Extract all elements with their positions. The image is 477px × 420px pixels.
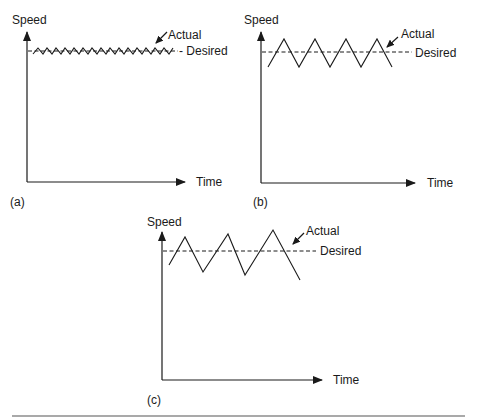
- y-axis-label: Speed: [244, 13, 279, 27]
- x-axis-label: Time: [196, 175, 223, 189]
- desired-label: - Desired: [179, 44, 228, 58]
- figure-canvas: Speed Time (a) Actual - Desired Speed Ti…: [0, 0, 477, 420]
- x-axis-label: Time: [427, 176, 454, 190]
- actual-label: Actual: [168, 28, 201, 42]
- y-axis-label: Speed: [147, 215, 182, 229]
- actual-label: Actual: [306, 224, 339, 238]
- panel-caption: (a): [10, 195, 25, 209]
- actual-pointer-arrow: [293, 233, 304, 244]
- panel-a: Speed Time (a) Actual - Desired: [10, 13, 228, 209]
- panel-b: Speed Time (b) Actual Desired: [244, 13, 456, 209]
- actual-pointer-arrow: [387, 37, 398, 47]
- panel-caption: (c): [147, 393, 161, 407]
- actual-curve: [268, 39, 392, 67]
- actual-label: Actual: [401, 27, 434, 41]
- actual-pointer-arrow: [156, 32, 167, 43]
- x-axis-label: Time: [333, 373, 360, 387]
- panel-c: Speed Time (c) Actual Desired: [147, 215, 361, 407]
- y-axis-label: Speed: [12, 13, 47, 27]
- desired-label: Desired: [320, 244, 361, 258]
- desired-label: Desired: [415, 46, 456, 60]
- actual-curve: [169, 230, 300, 280]
- panel-caption: (b): [253, 195, 268, 209]
